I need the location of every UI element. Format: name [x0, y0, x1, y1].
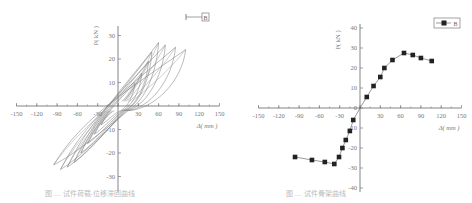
y-tick-label: 10: [109, 79, 116, 86]
data-point: [364, 95, 369, 100]
x-tick-label: 150: [215, 110, 225, 117]
y-tick-label: -40: [348, 184, 357, 191]
hysteresis-plot: -150-120-90-60-30306090120150-30-20-1010…: [0, 0, 236, 203]
y-tick-label: 30: [109, 32, 116, 39]
x-tick-label: -30: [335, 112, 344, 119]
y-tick-label: -20: [106, 149, 115, 156]
y-axis-label: P( kN ): [334, 30, 342, 49]
skeleton-chart: -150-120-90-60-30306090120150-40-30-20-1…: [236, 0, 472, 203]
x-tick-label: 90: [418, 112, 425, 119]
y-tick-label: -20: [348, 144, 357, 151]
y-tick-label: 30: [351, 44, 358, 51]
data-point: [323, 160, 328, 165]
data-point: [429, 59, 434, 64]
x-tick-label: 30: [377, 112, 384, 119]
y-tick-label: 10: [351, 84, 358, 91]
left-caption: 图 … 试件荷载-位移滞回曲线: [45, 188, 135, 198]
legend-label: B: [453, 21, 457, 27]
y-tick-label: 0: [354, 104, 357, 111]
data-point: [378, 75, 383, 80]
data-point: [340, 146, 345, 151]
x-tick-label: 30: [135, 110, 142, 117]
data-point: [332, 162, 337, 167]
data-point: [390, 58, 395, 63]
x-axis-label: Δ( mm ): [196, 122, 218, 130]
x-tick-label: 60: [155, 110, 162, 117]
x-tick-label: 90: [176, 110, 183, 117]
x-tick-label: -90: [295, 112, 304, 119]
data-point: [410, 53, 415, 58]
data-point: [348, 129, 353, 134]
legend: B: [186, 13, 209, 21]
x-tick-label: -120: [273, 112, 285, 119]
x-tick-label: -60: [315, 112, 324, 119]
y-tick-label: -30: [106, 173, 115, 180]
skeleton-plot: -150-120-90-60-30306090120150-40-30-20-1…: [236, 0, 472, 203]
data-point: [293, 155, 298, 160]
y-tick-label: 20: [109, 55, 116, 62]
legend-label: B: [203, 15, 207, 21]
y-tick-label: 40: [351, 24, 358, 31]
legend: B: [434, 18, 460, 28]
data-point: [343, 138, 348, 143]
data-point: [419, 56, 424, 61]
hysteresis-loop: [74, 43, 159, 163]
data-point: [310, 158, 315, 163]
legend-marker: [442, 21, 447, 26]
y-tick-label: -30: [348, 164, 357, 171]
data-point: [337, 155, 342, 160]
x-tick-label: -90: [53, 110, 62, 117]
x-tick-label: 60: [397, 112, 404, 119]
y-tick-label: 20: [351, 64, 358, 71]
y-axis-label: P( kN ): [92, 26, 100, 45]
x-tick-label: -120: [31, 110, 43, 117]
x-tick-label: -60: [73, 110, 82, 117]
data-point: [402, 51, 407, 56]
x-tick-label: -150: [253, 112, 265, 119]
x-tick-label: 120: [194, 110, 204, 117]
right-caption: 图 … 试件骨架曲线: [286, 188, 346, 198]
hysteresis-loop: [81, 52, 152, 153]
data-point: [382, 66, 387, 71]
x-axis-label: Δ( mm ): [438, 124, 460, 132]
data-point: [371, 84, 376, 89]
x-tick-label: 120: [436, 112, 446, 119]
x-tick-label: 150: [457, 112, 467, 119]
x-tick-label: -150: [11, 110, 23, 117]
skeleton-line: [295, 53, 432, 164]
hysteresis-chart: -150-120-90-60-30306090120150-30-20-1010…: [0, 0, 236, 203]
data-point: [351, 118, 356, 123]
